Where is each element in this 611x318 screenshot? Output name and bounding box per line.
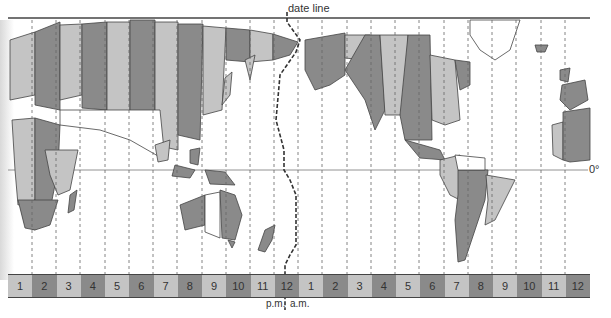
date-line-label: date line xyxy=(288,2,330,14)
hour-cell-am-3: 3 xyxy=(348,275,372,297)
new-zealand xyxy=(258,225,275,252)
hour-cell-am-6: 6 xyxy=(420,275,444,297)
hour-cell-pm-10: 10 xyxy=(226,275,250,297)
hour-cell-am-2: 2 xyxy=(323,275,347,297)
world-map xyxy=(0,0,611,318)
pm-label: p.m. xyxy=(266,298,285,309)
hour-cell-pm-11: 11 xyxy=(251,275,275,297)
hour-cell-pm-7: 7 xyxy=(154,275,178,297)
africa xyxy=(12,118,78,230)
hour-cell-am-4: 4 xyxy=(372,275,396,297)
hour-cell-am-9: 9 xyxy=(493,275,517,297)
southeast-asia xyxy=(155,140,235,185)
hour-cell-am-1: 1 xyxy=(299,275,323,297)
hour-cell-pm-4: 4 xyxy=(81,275,105,297)
south-america xyxy=(440,155,515,262)
hour-cell-pm-12: 12 xyxy=(275,275,299,297)
time-zone-strip: 1 2 3 4 5 6 7 8 9 10 11 12 1 2 3 4 5 6 7… xyxy=(8,274,590,298)
western-europe xyxy=(552,68,590,162)
am-label: a.m. xyxy=(290,298,309,309)
hour-cell-pm-9: 9 xyxy=(202,275,226,297)
hour-cell-pm-8: 8 xyxy=(178,275,202,297)
hour-cell-am-7: 7 xyxy=(445,275,469,297)
hour-cell-am-11: 11 xyxy=(542,275,566,297)
hour-cell-pm-5: 5 xyxy=(105,275,129,297)
hour-cell-am-12: 12 xyxy=(566,275,590,297)
north-america xyxy=(305,20,548,160)
hour-cell-pm-2: 2 xyxy=(32,275,56,297)
hour-cell-pm-1: 1 xyxy=(8,275,32,297)
hour-cell-pm-3: 3 xyxy=(57,275,81,297)
hour-cell-am-8: 8 xyxy=(469,275,493,297)
equator-label: 0° xyxy=(589,163,600,175)
hour-cell-am-10: 10 xyxy=(517,275,541,297)
hour-cell-pm-6: 6 xyxy=(129,275,153,297)
australia xyxy=(180,190,242,248)
hour-cell-am-5: 5 xyxy=(396,275,420,297)
